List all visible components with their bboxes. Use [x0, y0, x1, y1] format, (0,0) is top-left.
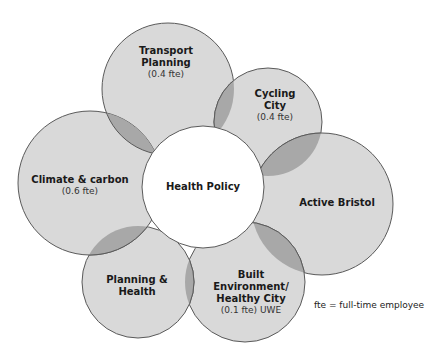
label-transport-planning: Transport Planning (0.4 fte) [139, 45, 193, 80]
label-active-bristol: Active Bristol [299, 197, 375, 209]
legend-note: fte = full-time employee [314, 300, 424, 310]
label-health-policy: Health Policy [166, 181, 240, 193]
label-planning-health: Planning & Health [106, 274, 168, 298]
label-built-environment: Built Environment/ Healthy City (0.1 fte… [213, 269, 289, 316]
label-climate-carbon: Climate & carbon (0.6 fte) [31, 174, 128, 197]
label-cycling-city: Cycling City (0.4 fte) [255, 88, 296, 123]
